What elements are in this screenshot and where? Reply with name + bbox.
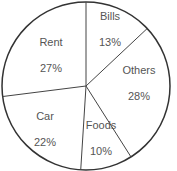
slice-label-others: Others28% bbox=[114, 64, 164, 103]
slice-label-rent: Rent27% bbox=[26, 36, 76, 75]
slice-label-foods: Foods10% bbox=[76, 119, 126, 158]
slice-label-bills: Bills13% bbox=[85, 10, 135, 49]
slice-label-car: Car22% bbox=[20, 110, 70, 149]
